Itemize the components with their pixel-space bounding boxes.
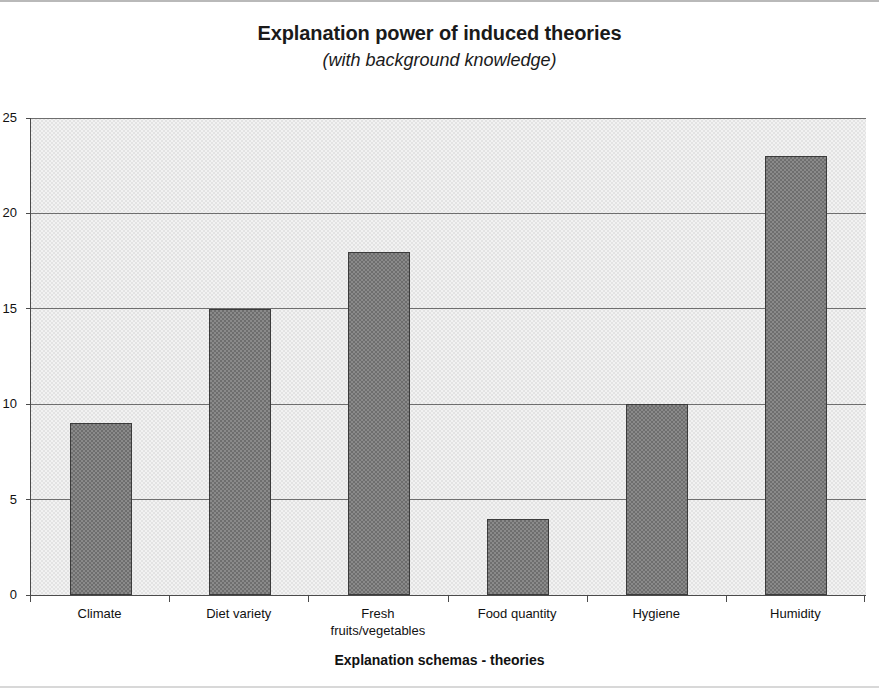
x-axis-tick bbox=[587, 596, 588, 602]
x-axis-tick-label: Climate bbox=[30, 605, 169, 622]
bar bbox=[348, 252, 410, 595]
bar bbox=[70, 423, 132, 595]
x-axis-tick bbox=[308, 596, 309, 602]
x-axis-tick bbox=[864, 596, 865, 602]
gridline bbox=[31, 118, 866, 119]
chart-subtitle: (with background knowledge) bbox=[0, 48, 879, 72]
y-axis-tick-label: 10 bbox=[0, 397, 26, 410]
x-axis-tick bbox=[30, 596, 31, 602]
y-axis-tick bbox=[26, 308, 31, 309]
x-axis-tick bbox=[448, 596, 449, 602]
y-axis-tick-label: 25 bbox=[0, 111, 26, 124]
y-axis-tick bbox=[26, 404, 31, 405]
gridline bbox=[31, 308, 866, 309]
y-axis-tick bbox=[26, 118, 31, 119]
y-axis-tick-label: 5 bbox=[0, 493, 26, 506]
x-axis-title: Explanation schemas - theories bbox=[0, 652, 879, 668]
bar bbox=[765, 156, 827, 595]
bar bbox=[209, 309, 271, 595]
x-axis-tick-label: Diet variety bbox=[169, 605, 308, 622]
x-axis: ClimateDiet varietyFresh fruits/vegetabl… bbox=[30, 596, 866, 652]
x-axis-tick bbox=[726, 596, 727, 602]
y-axis-tick-label: 20 bbox=[0, 206, 26, 219]
x-axis-tick-label: Fresh fruits/vegetables bbox=[308, 605, 447, 639]
x-axis-tick-label: Humidity bbox=[726, 605, 865, 622]
chart-title-block: Explanation power of induced theories (w… bbox=[0, 20, 879, 72]
bar bbox=[626, 404, 688, 595]
gridline bbox=[31, 404, 866, 405]
x-axis-tick-label: Food quantity bbox=[448, 605, 587, 622]
bar bbox=[487, 519, 549, 595]
x-axis-tick bbox=[169, 596, 170, 602]
plot-area bbox=[30, 118, 866, 596]
chart-title: Explanation power of induced theories bbox=[0, 20, 879, 46]
y-axis-tick bbox=[26, 499, 31, 500]
gridline bbox=[31, 213, 866, 214]
chart-figure: Explanation power of induced theories (w… bbox=[0, 0, 879, 688]
y-axis-tick bbox=[26, 213, 31, 214]
y-axis-tick-label: 15 bbox=[0, 302, 26, 315]
y-axis-tick-label: 0 bbox=[0, 588, 26, 601]
gridline bbox=[31, 499, 866, 500]
x-axis-tick-label: Hygiene bbox=[587, 605, 726, 622]
y-axis-tick-labels: 0510152025 bbox=[0, 118, 26, 595]
